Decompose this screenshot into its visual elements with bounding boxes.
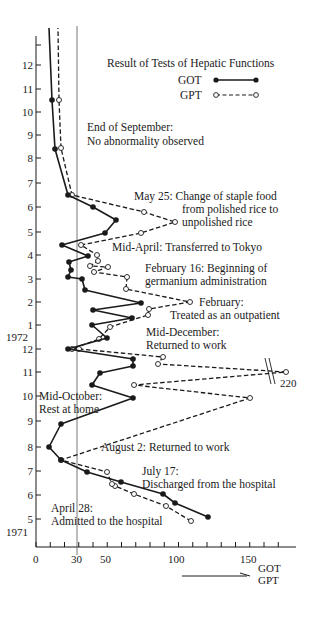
y-tick-label: 10 <box>22 390 34 402</box>
break-value-label: 220 <box>280 377 297 389</box>
annotation-end-september: End of September: <box>87 121 173 134</box>
annotation-april28-2: Admitted to the hospital <box>51 515 162 528</box>
annotation-feb16-2: germanium administration <box>145 275 267 288</box>
gpt-marker <box>59 146 64 151</box>
annotation-february: February: <box>199 296 244 309</box>
got-marker <box>84 469 90 475</box>
x-tick-label-100: 100 <box>168 553 185 565</box>
gpt-marker <box>173 220 178 225</box>
got-marker <box>52 146 58 152</box>
y-tick-label: 11 <box>22 83 33 95</box>
y-tick-label: 12 <box>22 59 33 71</box>
gpt-marker <box>188 300 193 305</box>
x-axis-label-got: GOT <box>258 562 281 574</box>
year-label-1972: 1972 <box>6 331 28 343</box>
got-marker <box>65 192 71 198</box>
got-marker <box>89 322 95 328</box>
got-marker <box>89 382 95 388</box>
y-tick-label: 8 <box>28 152 34 164</box>
hepatic-function-chart: 56789101112123456789101112 1971 1972 0 3… <box>0 0 313 622</box>
got-marker <box>113 217 119 223</box>
x-axis-ticks <box>36 542 278 547</box>
got-marker <box>138 300 144 306</box>
annotation-august2: August 2: Returned to work <box>101 441 230 454</box>
gpt-marker <box>124 287 129 292</box>
y-tick-label: 5 <box>28 226 34 238</box>
x-tick-label-30: 30 <box>71 553 83 565</box>
annotation-mid-december-2: Returned to work <box>146 339 227 351</box>
annotation-may25-3: unpolished rice <box>182 216 253 229</box>
gpt-marker <box>79 243 84 248</box>
legend-gpt-marker <box>254 93 259 98</box>
y-tick-label: 11 <box>22 366 33 378</box>
got-marker <box>58 457 64 463</box>
got-marker <box>82 287 88 293</box>
x-axis-label-gpt: GPT <box>258 574 279 586</box>
y-tick-label: 3 <box>28 273 34 285</box>
gpt-marker <box>92 270 97 275</box>
annotation-mid-october-2: Rest at home <box>39 403 99 415</box>
legend-label-gpt: GPT <box>180 89 202 101</box>
annotation-mid-october: Mid-October: <box>39 390 102 402</box>
gpt-marker <box>132 492 137 497</box>
gpt-marker <box>161 355 166 360</box>
got-marker <box>160 491 166 497</box>
gpt-marker <box>146 313 151 318</box>
gpt-marker <box>248 396 253 401</box>
legend-got-marker <box>213 77 218 82</box>
annotation-may25: May 25: Change of staple food <box>134 190 277 203</box>
got-marker <box>65 346 71 352</box>
got-marker <box>58 421 64 427</box>
y-tick-label: 10 <box>22 106 34 118</box>
legend-got-marker <box>253 77 258 82</box>
y-tick-label: 9 <box>28 415 34 427</box>
got-marker <box>130 363 136 369</box>
y-tick-label: 12 <box>22 343 33 355</box>
annotation-february-2: Treated as an outpatient <box>170 309 281 322</box>
annotation-may25-2: from polished rice to <box>182 203 278 216</box>
x-axis-label: GOT GPT <box>182 562 281 586</box>
legend-gpt-marker <box>214 93 219 98</box>
got-marker <box>90 307 96 313</box>
annotation-feb16: February 16: Beginning of <box>145 262 267 275</box>
gpt-marker <box>106 265 111 270</box>
got-marker <box>102 230 108 236</box>
legend: GOT GPT <box>178 74 259 101</box>
got-marker <box>46 444 52 450</box>
got-marker <box>205 514 211 520</box>
got-marker <box>49 97 55 103</box>
y-tick-label: 6 <box>28 201 34 213</box>
gpt-marker <box>164 504 169 509</box>
y-tick-label: 6 <box>28 489 34 501</box>
annotation-end-september-2: No abnormality observed <box>87 135 204 148</box>
y-tick-label: 2 <box>28 296 34 308</box>
gpt-marker <box>125 275 130 280</box>
gpt-marker <box>189 519 194 524</box>
chart-title: Result of Tests of Hepatic Functions <box>107 57 275 70</box>
gpt-marker <box>132 383 137 388</box>
annotation-mid-april: Mid-April: Transferred to Tokyo <box>112 241 262 254</box>
got-marker <box>85 253 91 259</box>
gpt-marker <box>108 325 113 330</box>
got-marker <box>130 395 136 401</box>
gpt-marker <box>284 370 289 375</box>
got-marker <box>68 267 74 273</box>
y-tick-label: 5 <box>28 513 34 525</box>
gpt-marker <box>88 264 93 269</box>
gpt-marker <box>110 482 115 487</box>
y-tick-label: 1 <box>28 319 34 331</box>
annotation-mid-december: Mid-December: <box>146 326 219 338</box>
gpt-marker <box>105 470 110 475</box>
y-axis-ticks: 56789101112123456789101112 <box>22 45 41 525</box>
year-label-1971: 1971 <box>6 526 28 538</box>
annotation-july17: July 17: <box>142 465 179 478</box>
got-marker <box>97 370 103 376</box>
x-tick-label-50: 50 <box>100 553 112 565</box>
gpt-marker <box>139 231 144 236</box>
got-marker <box>130 356 136 362</box>
got-marker <box>59 242 65 248</box>
y-tick-label: 9 <box>28 129 34 141</box>
y-tick-label: 7 <box>28 465 34 477</box>
x-tick-label-150: 150 <box>240 553 257 565</box>
got-marker <box>79 276 85 282</box>
